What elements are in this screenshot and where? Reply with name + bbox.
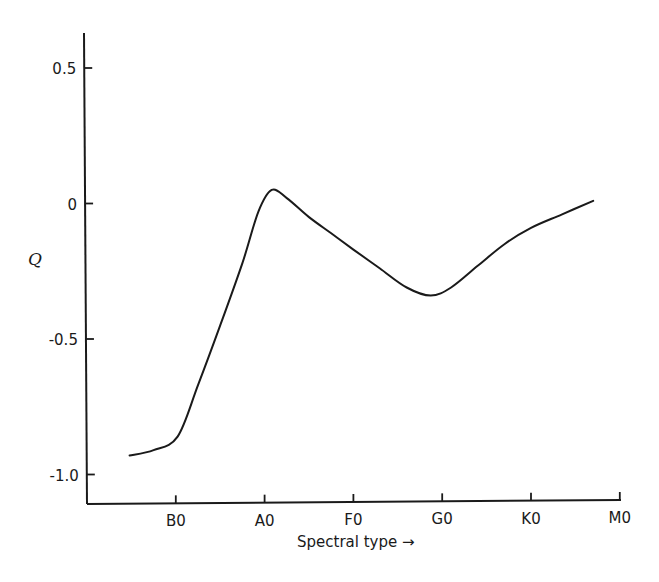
x-tick-label: A0 [255, 512, 275, 530]
x-ticks: B0A0F0G0K0M0 [166, 492, 631, 530]
y-ticks: 0.50-0.5-1.0 [49, 60, 95, 485]
y-tick-label: 0 [68, 196, 78, 214]
x-tick-label: B0 [166, 512, 186, 530]
chart-canvas: 0.50-0.5-1.0 B0A0F0G0K0M0 Q Spectral typ… [0, 0, 659, 582]
y-tick-label: -1.0 [50, 467, 79, 485]
x-tick-label: M0 [609, 509, 632, 527]
x-tick-label: K0 [521, 510, 540, 528]
y-tick-label: -0.5 [49, 331, 78, 349]
x-tick-label: F0 [344, 511, 362, 529]
y-axis-title: Q [28, 249, 42, 269]
series-line-q [130, 189, 594, 455]
y-tick-label: 0.5 [52, 60, 76, 78]
x-axis-title: Spectral type → [297, 533, 415, 551]
x-tick-label: G0 [432, 510, 453, 528]
y-axis-line [84, 33, 87, 504]
